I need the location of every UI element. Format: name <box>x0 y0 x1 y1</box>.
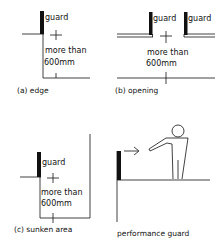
guard-post <box>37 152 41 177</box>
caption-edge: (a) edge <box>17 86 49 95</box>
guard-post <box>40 11 44 34</box>
dimension-tick-top <box>160 31 172 43</box>
dimension-label-line1: more than <box>41 188 82 197</box>
panel-sunken-area <box>20 134 90 223</box>
dimension-label-line1: more than <box>147 48 188 57</box>
caption-performance-guard: performance guard <box>117 229 189 238</box>
guard-post <box>117 151 121 180</box>
panel-performance-guard <box>117 125 210 222</box>
dimension-label-line2: 600mm <box>41 199 72 208</box>
guard-diagram: guard more than 600mm (a) edge guard gua… <box>0 0 220 242</box>
caption-sunken-area: (c) sunken area <box>14 225 72 234</box>
dimension-tick-top <box>50 30 62 40</box>
person-figure-icon <box>149 125 188 179</box>
dimension-label-line1: more than <box>45 46 86 55</box>
guard-label: guard <box>42 158 65 167</box>
guard-label-right: guard <box>188 14 211 23</box>
dimension-tick-top <box>47 173 59 183</box>
push-arrow-icon <box>124 147 139 155</box>
caption-opening: (b) opening <box>115 86 159 95</box>
dimension-label-line2: 600mm <box>146 59 177 68</box>
guard-label-left: guard <box>153 14 176 23</box>
guard-post-right <box>184 12 188 35</box>
guard-label: guard <box>45 13 68 22</box>
dimension-label-line2: 600mm <box>44 58 75 67</box>
guard-post-left <box>149 12 153 35</box>
